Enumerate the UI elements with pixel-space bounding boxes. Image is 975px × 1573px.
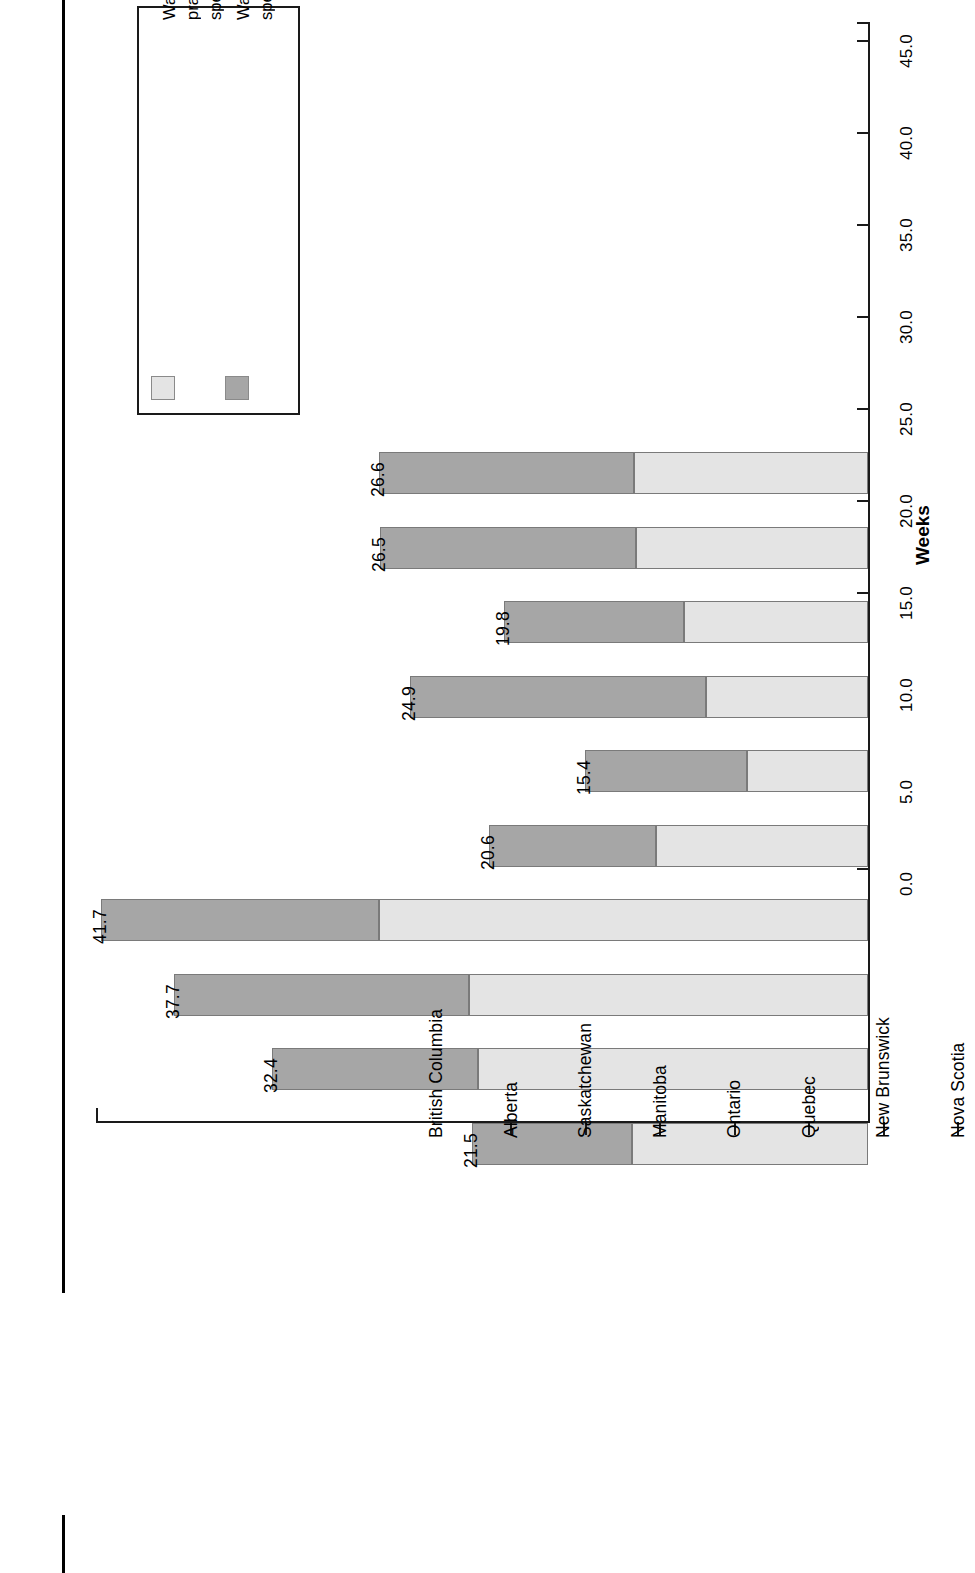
exhibit-title-block: EXHIBIT 34.6CanadianHospitalWaiting List… (0, 1340, 700, 1570)
bar-value-label: 37.7 (163, 984, 184, 1019)
value-axis-tick-label: 40.0 (897, 126, 917, 160)
bar-segment-specialist-to-treatment (380, 527, 636, 569)
bar-row (0, 452, 975, 494)
category-label: New Brunswick (873, 1017, 907, 1138)
category-label: Manitoba (650, 1065, 684, 1138)
value-axis-tick-label: 30.0 (897, 310, 917, 344)
category-label: Saskatchewan (575, 1023, 609, 1138)
bar-segment-specialist-to-treatment (585, 750, 747, 792)
bar-row (0, 527, 975, 569)
exhibit-title-line: Total Expected (160, 1565, 184, 1573)
bar-segment-gp-to-specialist (706, 676, 868, 718)
legend-label: Waiting time for appointment with (231, 0, 253, 20)
legend-swatch-gp-to-specialist (151, 376, 175, 400)
category-axis-endcap (96, 1108, 98, 1123)
bar-value-label: 26.6 (368, 462, 389, 497)
exhibit-title-line: from Referral (212, 1565, 236, 1573)
value-axis-tick-label: 0.0 (897, 872, 917, 896)
value-axis-tick (857, 868, 868, 870)
bar-segment-gp-to-specialist (469, 974, 868, 1016)
bar-segment-specialist-to-treatment (174, 974, 468, 1016)
bar-value-label: 15.4 (574, 760, 595, 795)
bar-segment-gp-to-specialist (684, 601, 868, 643)
exhibit-title-line: Canadian (80, 1565, 104, 1573)
exhibit-title-line: Waiting Lists: (133, 1565, 157, 1573)
value-axis-tick (857, 316, 868, 318)
bar-value-label: 32.4 (261, 1058, 282, 1093)
value-axis-tick-label: 25.0 (897, 402, 917, 436)
legend-label: specialist (203, 0, 225, 20)
bar-row (0, 974, 975, 1016)
bar-value-label: 19.8 (493, 611, 514, 646)
bar-segment-specialist-to-treatment (489, 825, 656, 867)
bar-segment-gp-to-specialist (634, 452, 868, 494)
exhibit-page: 0.05.010.015.020.025.030.035.040.045.0 2… (0, 0, 975, 1573)
bar-segment-gp-to-specialist (747, 750, 868, 792)
bar-value-label: 21.5 (461, 1133, 482, 1168)
legend-label: Waiting time from referral by general (157, 0, 179, 20)
exhibit-title-line: Province, 2017 (318, 1565, 342, 1573)
category-label: British Columbia (426, 1009, 460, 1138)
legend-swatch-specialist-to-treatment (225, 376, 249, 400)
chart-legend: Waiting time from referral by generalpra… (137, 6, 300, 415)
value-axis-tick (857, 224, 868, 226)
exhibit-title-line: by General (239, 1565, 263, 1573)
value-axis-tick-label: 45.0 (897, 34, 917, 68)
value-axis-tick (857, 408, 868, 410)
bar-segment-gp-to-specialist (636, 527, 868, 569)
category-label: Nova Scotia (948, 1043, 975, 1138)
bar-value-label: 24.9 (399, 686, 420, 721)
value-axis-tick-label: 35.0 (897, 218, 917, 252)
bar-segment-specialist-to-treatment (101, 899, 379, 941)
exhibit-number: EXHIBIT 34.6 (54, 1565, 78, 1573)
value-axis-endcap (857, 22, 870, 24)
exhibit-title-line: Treatment, by (292, 1565, 316, 1573)
bar-row (0, 750, 975, 792)
value-axis-line (868, 22, 870, 1122)
bar-row (0, 676, 975, 718)
legend-label: specialist to treatment (254, 0, 276, 20)
bar-value-label: 26.5 (369, 537, 390, 572)
value-axis-tick (857, 132, 868, 134)
value-axis-tick (857, 592, 868, 594)
category-label: Alberta (501, 1082, 535, 1138)
exhibit-title-line: Hospital (107, 1565, 131, 1573)
exhibit-title-line: Waiting Time (186, 1565, 210, 1573)
bar-segment-specialist-to-treatment (410, 676, 706, 718)
bar-row (0, 899, 975, 941)
bar-segment-specialist-to-treatment (504, 601, 684, 643)
bar-value-label: 41.7 (90, 909, 111, 944)
value-axis-title: Weeks (912, 505, 934, 565)
bar-row (0, 601, 975, 643)
bar-segment-gp-to-specialist (656, 825, 868, 867)
bar-segment-specialist-to-treatment (379, 452, 635, 494)
exhibit-title-line: Practitioner to (265, 1565, 289, 1573)
value-axis-tick (857, 40, 868, 42)
bar-segment-gp-to-specialist (379, 899, 868, 941)
legend-label: practitioner to appointment with (180, 0, 202, 20)
category-label: Quebec (799, 1076, 833, 1138)
category-label: Ontario (724, 1080, 758, 1138)
bar-value-label: 20.6 (478, 835, 499, 870)
value-axis-tick (857, 500, 868, 502)
